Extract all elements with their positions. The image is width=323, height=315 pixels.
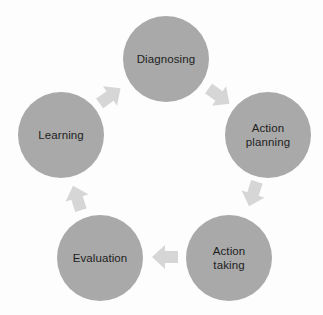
arrow-action-planning-to-action-taking	[238, 178, 269, 210]
node-learning: Learning	[18, 92, 104, 178]
node-label: Diagnosing	[137, 52, 196, 66]
arrow-action-taking-to-evaluation	[152, 245, 178, 269]
arrow-learning-to-diagnosing	[92, 79, 127, 114]
node-diagnosing: Diagnosing	[123, 16, 209, 102]
node-evaluation: Evaluation	[57, 215, 143, 301]
right-arrow-icon	[62, 182, 93, 214]
right-arrow-icon	[152, 245, 178, 269]
arrow-evaluation-to-learning	[62, 182, 93, 214]
node-label: Evaluation	[73, 251, 128, 265]
right-arrow-icon	[238, 178, 269, 210]
node-label: Learning	[38, 128, 84, 142]
node-action-planning: Action planning	[225, 92, 311, 178]
arrow-diagnosing-to-action-planning	[201, 79, 236, 114]
node-label: Action taking	[213, 244, 246, 272]
node-label: Action planning	[246, 121, 290, 149]
right-arrow-icon	[92, 79, 127, 114]
right-arrow-icon	[201, 79, 236, 114]
node-action-taking: Action taking	[186, 215, 272, 301]
cycle-diagram: Diagnosing Action planning Action taking…	[0, 0, 323, 315]
